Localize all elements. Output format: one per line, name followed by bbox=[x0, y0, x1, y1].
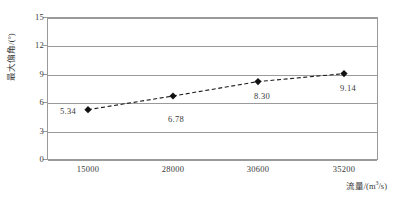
y-axis-tick-label-3: 3 bbox=[18, 127, 44, 136]
y-axis-tick-label-0: 0 bbox=[18, 155, 44, 164]
y-axis-tick-label-12: 12 bbox=[18, 41, 44, 50]
data-point-label-2: 8.30 bbox=[242, 92, 282, 101]
y-axis-title-unit: /(°) bbox=[6, 33, 16, 44]
gridline bbox=[48, 132, 377, 133]
x-axis-title: 流量/(m3/s) bbox=[346, 181, 387, 191]
x-axis-title-separator: /(m bbox=[364, 181, 376, 191]
gridline bbox=[48, 103, 377, 104]
gridline bbox=[48, 160, 377, 161]
x-axis-tick-label-1: 28000 bbox=[143, 165, 203, 174]
data-point-label-0: 5.34 bbox=[48, 107, 88, 116]
data-point-label-1: 6.78 bbox=[156, 115, 196, 124]
x-axis-tick-label-3: 35200 bbox=[314, 165, 374, 174]
data-point-label-3: 9.14 bbox=[328, 84, 368, 93]
y-axis-tick-label-15: 15 bbox=[18, 13, 44, 22]
x-axis-title-tail: /s) bbox=[379, 181, 388, 191]
y-axis-title: 最大偏角/(°) bbox=[6, 19, 16, 95]
chart-container: 15 12 9 6 3 0 最大偏角/(°) 15000 28000 30600… bbox=[0, 0, 395, 203]
x-axis-tick-label-0: 15000 bbox=[58, 165, 118, 174]
x-axis-title-name: 流量 bbox=[346, 181, 364, 191]
gridline bbox=[48, 46, 377, 47]
x-axis-tick-label-2: 30600 bbox=[228, 165, 288, 174]
y-axis-tick-label-6: 6 bbox=[18, 98, 44, 107]
y-axis-title-name: 最大偏角 bbox=[6, 45, 16, 81]
gridline bbox=[48, 75, 377, 76]
y-axis-tick-label-9: 9 bbox=[18, 70, 44, 79]
gridline bbox=[48, 18, 377, 19]
